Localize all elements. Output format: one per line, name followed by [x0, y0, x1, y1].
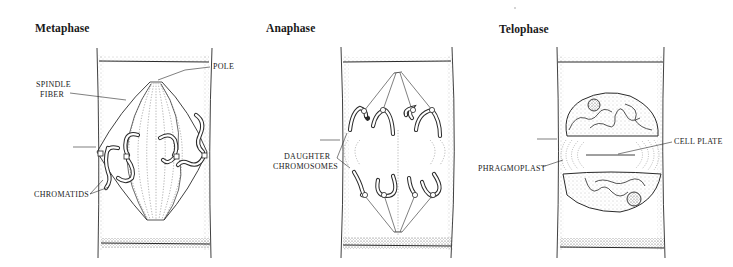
anaphase-cell: [320, 47, 454, 258]
label-cell-plate: CELL PLATE: [674, 137, 723, 147]
label-spindle-fiber-2: FIBER: [40, 90, 64, 100]
title-telophase: Telophase: [499, 23, 549, 35]
label-spindle-fiber-1: SPINDLE: [36, 80, 71, 90]
label-phragmoplast: PHRAGMOPLAST: [478, 164, 546, 174]
mitosis-diagram: Metaphase Anaphase Telophase POLE SPINDL…: [0, 0, 733, 267]
label-pole: POLE: [213, 62, 234, 72]
metaphase-cell: [70, 48, 212, 258]
title-anaphase: Anaphase: [266, 22, 315, 34]
diagram-drawing: [0, 0, 733, 267]
telophase-cell: [537, 47, 672, 258]
label-chromatids: CHROMATIDS: [34, 190, 89, 200]
title-metaphase: Metaphase: [35, 22, 90, 34]
label-daughter-1: DAUGHTER: [284, 152, 330, 162]
stray-mark: [514, 7, 515, 8]
label-daughter-2: CHROMOSOMES: [273, 162, 338, 172]
